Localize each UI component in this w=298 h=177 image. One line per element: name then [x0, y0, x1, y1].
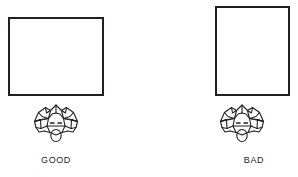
observer-figure-bad: [214, 100, 270, 144]
caption-good: GOOD: [0, 156, 112, 165]
observer-figure-good: [28, 100, 84, 144]
caption-bad: BAD: [198, 156, 298, 165]
comparison-figure: GOOD: [0, 0, 298, 177]
display-rectangle-good: [8, 17, 104, 96]
display-rectangle-bad: [215, 6, 290, 96]
